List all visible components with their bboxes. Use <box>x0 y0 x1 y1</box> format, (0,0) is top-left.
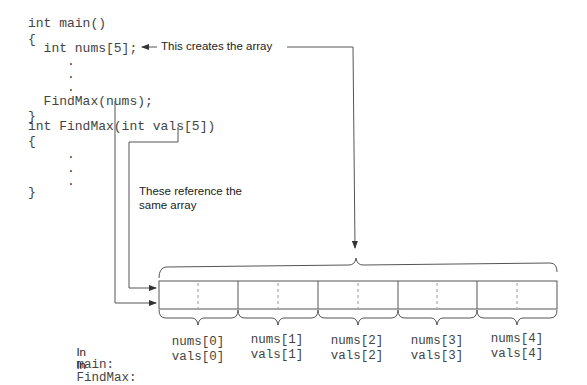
cell-label-0: nums[0] vals[0] <box>158 335 238 365</box>
cell-main-4: nums[4] <box>477 332 557 347</box>
cell-findmax-3: vals[3] <box>397 349 477 364</box>
cell-findmax-1: vals[1] <box>237 348 317 363</box>
cell-findmax-0: vals[0] <box>158 350 238 365</box>
legend-findmax: In FindMax: <box>70 347 136 385</box>
nums-connector <box>115 101 156 303</box>
vals-connector <box>129 127 178 288</box>
cell-main-2: nums[2] <box>317 334 397 349</box>
top-brace <box>159 258 557 278</box>
cell-label-3: nums[3] vals[3] <box>397 334 477 364</box>
legend-findmax-prefix: In <box>76 359 86 371</box>
cell-main-3: nums[3] <box>397 334 477 349</box>
cell-main-0: nums[0] <box>158 335 238 350</box>
creates-connector <box>287 47 355 248</box>
cell-main-1: nums[1] <box>237 333 317 348</box>
cell-findmax-2: vals[2] <box>317 349 397 364</box>
cell-findmax-4: vals[4] <box>477 347 557 362</box>
cell-label-2: nums[2] vals[2] <box>317 334 397 364</box>
cell-label-1: nums[1] vals[1] <box>237 333 317 363</box>
legend-findmax-name: FindMax: <box>76 371 136 385</box>
cell-label-4: nums[4] vals[4] <box>477 332 557 362</box>
